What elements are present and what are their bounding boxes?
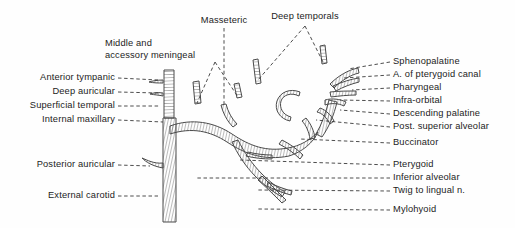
label-inferior-alveolar: Inferior alveolar bbox=[393, 172, 460, 184]
leader-infra-orbital bbox=[340, 100, 390, 101]
label-superficial-temporal: Superficial temporal bbox=[30, 100, 115, 112]
leader-sphenopalatine bbox=[348, 62, 390, 69]
label-post-superior-alveolar: Post. superior alveolar bbox=[393, 121, 489, 133]
label-sphenopalatine: Sphenopalatine bbox=[393, 56, 460, 68]
masseteric-vessel bbox=[221, 104, 237, 127]
deep-temporal-anterior-vessel bbox=[253, 59, 261, 84]
label-twig-to-lingual-nerve: Twig to lingual n. bbox=[393, 185, 465, 197]
label-deep-temporals: Deep temporals bbox=[271, 11, 339, 23]
post-superior-alveolar-vessel bbox=[302, 118, 315, 139]
accessory-meningeal-vessel bbox=[234, 83, 242, 98]
leader-deep-temporal-right bbox=[305, 26, 323, 62]
anterior-tympanic-vessel bbox=[149, 80, 163, 83]
pterygoid-plexus-loop bbox=[276, 90, 300, 121]
leader-meningeal-right bbox=[215, 62, 238, 97]
label-anterior-tympanic: Anterior tympanic bbox=[40, 72, 115, 84]
label-mylohyoid: Mylohyoid bbox=[393, 204, 436, 216]
superficial-temporal-vessel bbox=[164, 70, 174, 118]
leader-deep-auricular bbox=[118, 92, 158, 93]
label-internal-maxillary: Internal maxillary bbox=[42, 114, 115, 126]
label-buccinator: Buccinator bbox=[393, 137, 438, 149]
label-pharyngeal: Pharyngeal bbox=[393, 82, 442, 94]
label-pterygoid: Pterygoid bbox=[393, 159, 434, 171]
middle-meningeal-vessel bbox=[193, 81, 201, 104]
leader-internal-maxillary bbox=[118, 120, 163, 122]
pharyngeal-vessel bbox=[330, 91, 356, 97]
posterior-auricular-vessel bbox=[142, 158, 163, 168]
label-masseteric: Masseteric bbox=[201, 15, 247, 27]
vessel-group bbox=[142, 45, 359, 222]
label-deep-auricular: Deep auricular bbox=[52, 86, 115, 98]
leader-posterior-auricular bbox=[118, 165, 150, 166]
leader-mylohyoid bbox=[258, 209, 390, 210]
label-pterygoid-canal-artery: A. of pterygoid canal bbox=[393, 69, 481, 81]
label-middle-meningeal-line1: Middle and bbox=[105, 38, 152, 50]
leader-anterior-tympanic bbox=[118, 78, 158, 80]
anatomical-figure: Anterior tympanic Deep auricular Superfi… bbox=[0, 0, 515, 228]
leader-buccinator bbox=[300, 139, 390, 143]
label-descending-palatine: Descending palatine bbox=[393, 108, 480, 120]
label-accessory-meningeal-line2: accessory meningeal bbox=[105, 50, 195, 62]
leader-pharyngeal bbox=[352, 88, 390, 90]
deep-temporal-posterior-vessel bbox=[320, 45, 327, 64]
label-infra-orbital: Infra-orbital bbox=[393, 95, 442, 107]
label-external-carotid: External carotid bbox=[48, 190, 115, 202]
leader-deep-temporal-left bbox=[258, 26, 305, 80]
leader-meningeal-left bbox=[197, 62, 215, 103]
leader-pterygoid bbox=[240, 160, 390, 165]
leader-descending-palatine bbox=[340, 110, 390, 114]
label-posterior-auricular: Posterior auricular bbox=[37, 159, 115, 171]
